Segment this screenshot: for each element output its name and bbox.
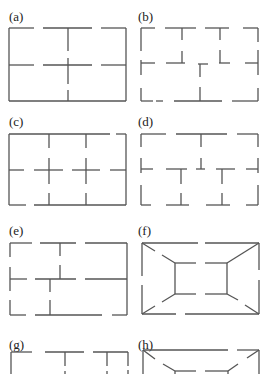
floorplan-diagrams	[0, 0, 263, 374]
panel-d-plan	[141, 134, 258, 205]
panel-a-plan	[9, 28, 126, 101]
panel-e-plan	[10, 243, 127, 315]
panel-h-plan	[143, 350, 259, 374]
panel-c-plan	[9, 134, 126, 205]
panel-b-plan	[141, 28, 258, 101]
panel-f-plan	[142, 243, 259, 314]
panel-g-plan	[11, 352, 128, 374]
